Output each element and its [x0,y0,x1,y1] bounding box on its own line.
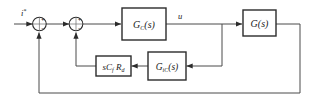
input-signal-label: i* [21,8,26,18]
controller-block-label: GC(s) [133,19,155,31]
sum2-plus-sign: + [78,16,81,22]
sum1-plus-sign: + [41,16,44,22]
sum1-minus-sign: − [41,25,44,31]
block-diagram-svg: + − + − GC(s) G(s) [0,0,314,108]
block-diagram-canvas: + − + − GC(s) G(s) [0,0,314,108]
controller-block[interactable]: GC(s) [122,8,166,40]
damping-gain-block[interactable]: sCf Rd [96,56,131,76]
plant-block-label: G(s) [251,18,269,30]
sum2-minus-sign: − [78,25,81,31]
control-signal-label: u [178,11,182,21]
inner-controller-block[interactable]: GiC(s) [148,52,186,80]
inner-summing-junction: + − [69,16,83,31]
outer-summing-junction: + − [33,16,47,31]
plant-block[interactable]: G(s) [243,10,276,36]
